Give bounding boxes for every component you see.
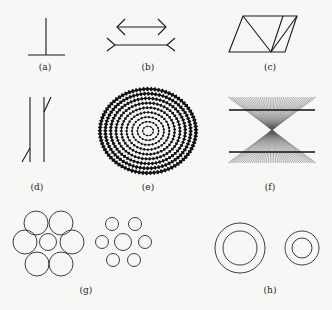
panel-label-g: (g) <box>80 285 93 295</box>
panel-c-sander-parallelogram <box>229 16 297 52</box>
panel-label-d: (d) <box>31 182 44 192</box>
panel-label-c: (c) <box>264 62 276 72</box>
panel-e-fraser-spiral <box>98 87 199 176</box>
panel-f-hering <box>228 97 316 163</box>
optical-illusions-figure: (a) (b) (c) (d) (e) (f) (g) (h) <box>0 0 332 310</box>
panel-label-a: (a) <box>39 62 51 72</box>
panel-d-poggendorff <box>22 97 51 162</box>
panel-label-e: (e) <box>142 182 154 192</box>
panel-label-h: (h) <box>264 285 277 295</box>
panel-g-ebbinghaus <box>13 211 152 276</box>
panel-b-muller-lyer <box>107 19 175 51</box>
panel-a-vertical-horizontal <box>28 18 65 55</box>
panel-h-delboeuf <box>215 223 319 273</box>
panel-label-b: (b) <box>142 62 155 72</box>
panel-label-f: (f) <box>265 182 275 192</box>
